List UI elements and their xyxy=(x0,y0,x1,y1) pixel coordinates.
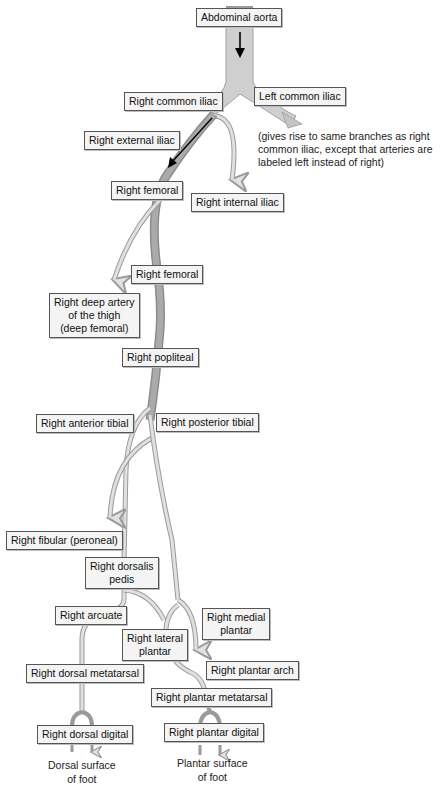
label-right-plantar-arch: Right plantar arch xyxy=(206,661,299,680)
label-right-posterior-tibial: Right posterior tibial xyxy=(156,413,259,432)
caption-dorsal-surface: Dorsal surface of foot xyxy=(48,758,116,786)
label-right-dorsalis-pedis: Right dorsalis pedis xyxy=(85,557,159,589)
caption-plantar-surface: Plantar surface of foot xyxy=(177,756,248,784)
label-right-plantar-metatarsal: Right plantar metatarsal xyxy=(151,688,272,707)
label-left-common-iliac: Left common iliac xyxy=(254,87,346,106)
label-right-internal-iliac: Right internal iliac xyxy=(191,193,284,212)
label-right-femoral-lower: Right femoral xyxy=(131,265,203,284)
label-right-deep-artery-thigh: Right deep artery of the thigh (deep fem… xyxy=(49,293,140,338)
label-right-external-iliac: Right external iliac xyxy=(84,131,180,150)
label-right-common-iliac: Right common iliac xyxy=(124,92,223,111)
label-right-dorsal-metatarsal: Right dorsal metatarsal xyxy=(26,664,144,683)
label-right-anterior-tibial: Right anterior tibial xyxy=(36,414,134,433)
label-right-popliteal: Right popliteal xyxy=(122,348,199,367)
label-right-fibular: Right fibular (peroneal) xyxy=(6,531,123,550)
right-arcuate-vessel xyxy=(124,590,164,620)
label-right-dorsal-digital: Right dorsal digital xyxy=(37,725,133,744)
label-right-lateral-plantar: Right lateral plantar xyxy=(122,629,188,661)
label-right-arcuate: Right arcuate xyxy=(55,606,127,625)
label-right-femoral-upper: Right femoral xyxy=(111,181,183,200)
right-internal-iliac-vessel xyxy=(216,116,234,180)
left-iliac-note: (gives rise to same branches as right co… xyxy=(258,130,433,169)
label-right-medial-plantar: Right medial plantar xyxy=(202,608,270,640)
label-abdominal-aorta: Abdominal aorta xyxy=(196,8,282,27)
label-right-plantar-digital: Right plantar digital xyxy=(164,723,264,742)
